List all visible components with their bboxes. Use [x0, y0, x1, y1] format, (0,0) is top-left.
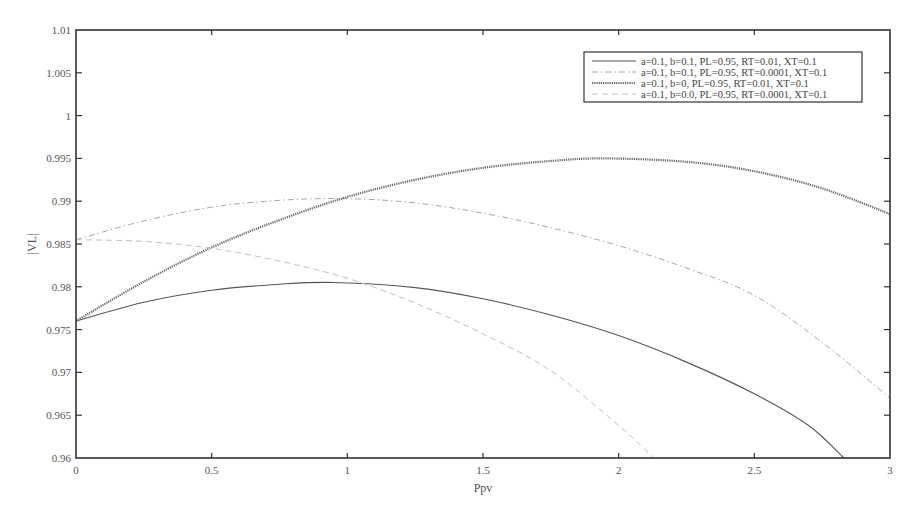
legend-label: a=0.1, b=0, PL=0.95, RT=0.01, XT=0.1: [641, 78, 809, 89]
x-tick-label: 1.5: [476, 464, 490, 476]
x-tick-label: 0.5: [205, 464, 219, 476]
x-tick-label: 0: [73, 464, 79, 476]
x-tick-label: 2.5: [747, 464, 761, 476]
y-tick-label: 0.99: [52, 195, 72, 207]
y-tick-label: 1.005: [46, 67, 71, 79]
y-axis-label: |VL|: [25, 234, 39, 255]
legend-label: a=0.1, b=0.1, PL=0.95, RT=0.0001, XT=0.1: [641, 67, 827, 78]
legend-label: a=0.1, b=0.1, PL=0.95, RT=0.01, XT=0.1: [641, 56, 817, 67]
x-axis-label: Ppv: [474, 481, 493, 495]
x-tick-label: 3: [887, 464, 893, 476]
legend: a=0.1, b=0.1, PL=0.95, RT=0.01, XT=0.1 a…: [584, 52, 862, 102]
y-tick-label: 1.01: [52, 24, 71, 36]
line-chart: 00.511.522.53 0.960.9650.970.9750.980.98…: [0, 0, 922, 529]
y-tick-label: 0.985: [46, 238, 71, 250]
x-tick-label: 1: [345, 464, 351, 476]
y-tick-label: 0.98: [52, 281, 72, 293]
legend-label: a=0.1, b=0.0, PL=0.95, RT=0.0001, XT=0.1: [641, 89, 827, 100]
y-tick-label: 0.965: [46, 409, 71, 421]
y-tick-label: 1: [66, 110, 72, 122]
y-tick-label: 0.97: [52, 366, 72, 378]
y-tick-label: 0.995: [46, 152, 71, 164]
y-tick-label: 0.96: [52, 452, 72, 464]
x-tick-label: 2: [616, 464, 622, 476]
y-tick-label: 0.975: [46, 324, 71, 336]
